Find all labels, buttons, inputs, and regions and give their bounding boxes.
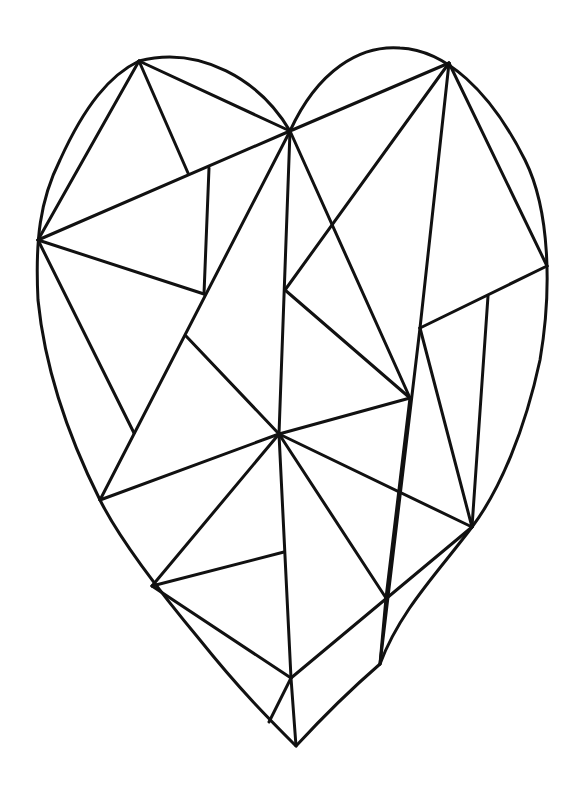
facet-line (279, 398, 410, 434)
facet-line (449, 63, 547, 266)
facet-line (420, 266, 547, 328)
heart-facet-lines (38, 61, 547, 746)
facet-line (472, 296, 488, 527)
facet-line (285, 290, 410, 398)
facet-line (38, 131, 290, 240)
facet-line (100, 131, 290, 500)
facet-line (204, 168, 209, 294)
heart-outline (37, 48, 547, 746)
facet-line (139, 61, 290, 131)
facet-line (38, 240, 204, 294)
facet-line (152, 552, 284, 586)
facet-line (38, 61, 139, 240)
facet-line (139, 61, 188, 173)
facet-line (279, 131, 290, 434)
facet-line (38, 240, 134, 433)
facet-line (279, 434, 291, 678)
facet-line (290, 131, 410, 398)
facet-line (420, 328, 472, 527)
facet-line (386, 398, 410, 598)
facet-line (269, 678, 291, 722)
facet-line (420, 63, 449, 328)
facet-line (186, 336, 279, 434)
faceted-heart-drawing (0, 0, 584, 792)
facet-line (291, 678, 296, 746)
